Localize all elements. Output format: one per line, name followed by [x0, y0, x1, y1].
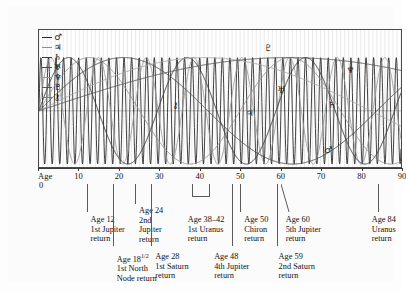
- legend-item-uranus: ♅: [42, 62, 68, 72]
- callout-age-12: Age 12 1st Jupiter return: [91, 215, 125, 244]
- callout-age-59: Age 59 2nd Saturn return: [279, 252, 315, 281]
- legend-swatch-pluto: [42, 87, 52, 88]
- leader-age-48: [232, 184, 233, 246]
- x-axis-label-80: 80: [357, 171, 366, 181]
- callout-18-half-prefix: Age 18: [117, 255, 141, 264]
- legend-symbol-chiron: ⚷: [54, 93, 60, 102]
- legend: ♂♃♄♅♆♇⚷: [42, 32, 68, 102]
- uranus-label: ♅: [277, 85, 285, 94]
- callout-age-18-half: Age 181/21st North Node return: [117, 252, 157, 284]
- leader-age-18-half: [113, 184, 114, 246]
- callout-age-38-42: Age 38–42 1st Uranus return: [188, 215, 225, 244]
- callout-age-28: Age 28 1st Saturn return: [155, 252, 188, 281]
- legend-symbol-jupiter: ♃: [54, 43, 62, 52]
- leader-age-60-diagonal: [281, 184, 291, 214]
- legend-symbol-saturn: ♄: [54, 53, 62, 62]
- x-axis-tick-0: [38, 168, 39, 171]
- legend-swatch-mars: [42, 37, 52, 38]
- x-axis-label-90: 90: [398, 171, 406, 181]
- callout-18-half-rest: 1st North Node return: [117, 264, 157, 283]
- legend-swatch-uranus: [42, 67, 52, 68]
- figure-plate: ♇♆♅⚷♃♄♂ ♂♃♄♅♆♇⚷ Age 0 102030405060708090…: [8, 6, 394, 282]
- mars-label: ♂: [324, 145, 332, 154]
- x-axis-label-60: 60: [276, 171, 285, 181]
- legend-swatch-saturn: [42, 57, 52, 58]
- pluto-label: ♇: [264, 44, 272, 53]
- legend-symbol-mars: ♂: [54, 33, 62, 42]
- chiron-label: ⚷: [172, 101, 179, 110]
- leader-age-24: [135, 184, 136, 204]
- callout-18-half-fraction: 1/2: [141, 253, 149, 259]
- legend-swatch-jupiter: [42, 47, 52, 48]
- x-axis-line: [38, 168, 402, 169]
- jupiter-label: ♃: [246, 109, 254, 118]
- leader-age-12: [87, 184, 88, 212]
- legend-swatch-neptune: [42, 77, 52, 78]
- legend-item-neptune: ♆: [42, 72, 68, 82]
- x-axis-label-70: 70: [317, 171, 326, 181]
- legend-item-chiron: ⚷: [42, 92, 68, 102]
- x-axis-label-10: 10: [74, 171, 83, 181]
- legend-item-jupiter: ♃: [42, 42, 68, 52]
- legend-symbol-neptune: ♆: [54, 73, 62, 82]
- bracket-age-38-42: [192, 184, 210, 197]
- x-axis-label-20: 20: [115, 171, 124, 181]
- saturn-label: ♄: [328, 101, 336, 110]
- legend-item-mars: ♂: [42, 32, 68, 42]
- callout-age-50: Age 50 Chiron return: [244, 215, 268, 244]
- leader-age-28: [151, 184, 152, 246]
- legend-item-saturn: ♄: [42, 52, 68, 62]
- callout-age-60: Age 60 5th Jupiter return: [286, 215, 321, 244]
- legend-symbol-uranus: ♅: [54, 63, 62, 72]
- leader-age-59: [277, 184, 278, 246]
- callout-age-84: Age 84 Uranus return: [372, 215, 396, 244]
- neptune-label: ♆: [346, 66, 354, 75]
- legend-item-pluto: ♇: [42, 82, 68, 92]
- chart-curve-symbols: ♇♆♅⚷♃♄♂: [39, 30, 401, 167]
- x-axis-label-30: 30: [155, 171, 164, 181]
- chart-plot-area: ♇♆♅⚷♃♄♂: [38, 29, 402, 168]
- legend-symbol-pluto: ♇: [54, 83, 62, 92]
- x-axis-label-40: 40: [196, 171, 205, 181]
- leader-age-84: [378, 184, 379, 212]
- leader-age-50: [240, 184, 241, 212]
- callout-age-48: Age 48 4th Jupiter return: [214, 252, 249, 281]
- callout-annotations: Age 12 1st Jupiter returnAge 24 2nd Jupi…: [38, 182, 402, 293]
- legend-swatch-chiron: [42, 97, 52, 98]
- x-axis-label-50: 50: [236, 171, 245, 181]
